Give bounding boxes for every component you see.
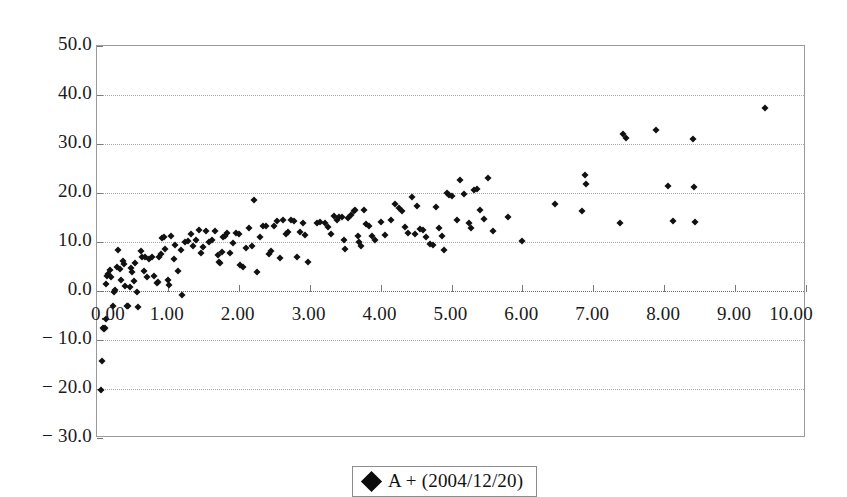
y-tick-label: 40.0 [58, 82, 92, 104]
data-point [285, 228, 292, 235]
data-point [690, 183, 697, 190]
data-point [254, 269, 261, 276]
data-point [305, 259, 312, 266]
data-point [279, 217, 286, 224]
data-point [441, 246, 448, 253]
data-point [485, 174, 492, 181]
data-point [293, 253, 300, 260]
gridline-y [97, 389, 804, 390]
y-tick-mark [97, 144, 103, 145]
y-tick-label: 20.0 [58, 180, 92, 202]
data-point [342, 245, 349, 252]
data-point [398, 207, 405, 214]
x-tick-label: 6.00 [504, 303, 538, 325]
data-point [689, 136, 696, 143]
y-tick-label: 10.0 [58, 229, 92, 251]
y-tick-label: − 20.0 [42, 376, 92, 398]
data-point [302, 232, 309, 239]
x-tick-label: 8.00 [646, 303, 680, 325]
x-tick-label: 7.00 [575, 303, 609, 325]
y-tick-label: 0.0 [68, 278, 92, 300]
data-point [227, 249, 234, 256]
data-point [652, 127, 659, 134]
diamond-marker-icon [361, 470, 382, 491]
data-point [240, 264, 247, 271]
data-point [581, 172, 588, 179]
y-tick-mark [97, 95, 103, 96]
x-tick-mark [381, 285, 382, 292]
data-point [129, 269, 136, 276]
data-point [230, 240, 237, 247]
data-point [414, 202, 421, 209]
data-point [377, 218, 384, 225]
x-tick-mark [310, 285, 311, 292]
data-point [438, 233, 445, 240]
x-tick-label: 5.00 [433, 303, 467, 325]
data-point [692, 219, 699, 226]
data-point [761, 105, 768, 112]
data-point [133, 288, 140, 295]
data-point [170, 256, 177, 263]
x-tick-label: 2.00 [221, 303, 255, 325]
data-point [177, 247, 184, 254]
data-point [481, 216, 488, 223]
gridline-y [97, 95, 804, 96]
zero-axis-line [97, 291, 804, 292]
y-tick-mark [97, 242, 103, 243]
y-tick-label: − 10.0 [42, 327, 92, 349]
y-tick-mark [97, 193, 103, 194]
data-point [578, 207, 585, 214]
data-point [381, 232, 388, 239]
y-tick-mark [97, 46, 103, 47]
data-point [251, 197, 258, 204]
data-point [435, 225, 442, 232]
x-tick-label: 9.00 [717, 303, 751, 325]
data-point [432, 204, 439, 211]
plot-area [96, 45, 805, 437]
data-point [132, 259, 139, 266]
data-point [166, 281, 173, 288]
data-point [422, 234, 429, 241]
data-point [583, 180, 590, 187]
data-point [489, 228, 496, 235]
data-point [617, 219, 624, 226]
x-tick-label: 3.00 [292, 303, 326, 325]
data-point [130, 278, 137, 285]
data-point [476, 207, 483, 214]
y-tick-label: 50.0 [58, 33, 92, 55]
data-point [291, 217, 298, 224]
x-tick-mark [806, 285, 807, 292]
data-point [366, 222, 373, 229]
data-point [98, 357, 105, 364]
data-point [217, 259, 224, 266]
data-point [360, 206, 367, 213]
data-point [456, 177, 463, 184]
y-axis-labels: 50.040.030.020.010.00.0− 10.0− 20.0− 30.… [0, 0, 92, 497]
x-tick-label: 4.00 [363, 303, 397, 325]
y-tick-label: 30.0 [58, 131, 92, 153]
data-point [108, 273, 115, 280]
data-point [505, 213, 512, 220]
data-point [411, 231, 418, 238]
data-point [622, 135, 629, 142]
x-tick-mark [593, 285, 594, 292]
data-point [115, 247, 122, 254]
data-point [211, 227, 218, 234]
y-tick-mark [97, 438, 103, 439]
gridline-y [97, 340, 804, 341]
data-point [174, 268, 181, 275]
gridline-y [97, 144, 804, 145]
x-tick-mark [664, 285, 665, 292]
data-point [200, 243, 207, 250]
data-point [276, 254, 283, 261]
x-tick-label: 10.00 [769, 303, 813, 325]
data-point [168, 232, 175, 239]
y-tick-mark [97, 340, 103, 341]
data-point [665, 183, 672, 190]
data-point [245, 224, 252, 231]
data-point [669, 218, 676, 225]
data-point [179, 292, 186, 299]
data-point [224, 229, 231, 236]
data-point [454, 217, 461, 224]
data-point [203, 228, 210, 235]
